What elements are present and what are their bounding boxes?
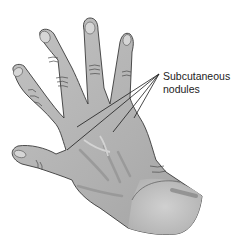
nodules-label: Subcutaneous nodules <box>163 70 230 96</box>
label-line-2: nodules <box>163 83 230 96</box>
label-line-1: Subcutaneous <box>163 70 230 83</box>
hand-drawing <box>0 0 239 241</box>
hand-illustration: Subcutaneous nodules <box>0 0 239 241</box>
hand-shape <box>12 18 202 235</box>
